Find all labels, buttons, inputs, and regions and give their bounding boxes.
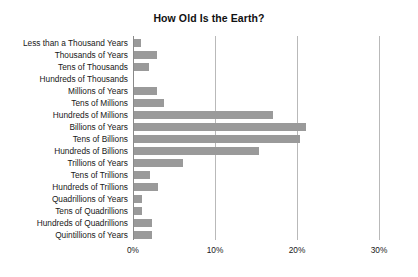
category-label: Tens of Quadrillions [0,205,128,217]
bar-row: Thousands of Years [0,49,418,61]
bar-row: Hundreds of Trillions [0,181,418,193]
x-tick-label: 10% [207,244,224,256]
bar [134,51,157,59]
category-label: Quintillions of Years [0,229,128,241]
bar-rows: Less than a Thousand YearsThousands of Y… [0,36,418,240]
category-label: Millions of Years [0,85,128,97]
bar [134,207,142,215]
bar [134,147,259,155]
bar [134,159,183,167]
bar-row: Quadrillions of Years [0,193,418,205]
category-label: Hundreds of Trillions [0,181,128,193]
bar-row: Tens of Billions [0,133,418,145]
category-label: Hundreds of Quadrillions [0,217,128,229]
category-label: Less than a Thousand Years [0,37,128,49]
bar-chart: How Old Is the Earth? Less than a Thousa… [0,0,418,277]
bar [134,135,300,143]
bar-row: Tens of Quadrillions [0,205,418,217]
category-label: Thousands of Years [0,49,128,61]
x-axis-ticks: 0%10%20%30% [0,244,418,258]
bar [134,99,164,107]
bar [134,39,141,47]
chart-title: How Old Is the Earth? [0,12,418,24]
bar-row: Quintillions of Years [0,229,418,241]
x-tick-label: 20% [289,244,306,256]
bar [134,87,157,95]
category-label: Hundreds of Billions [0,145,128,157]
x-tick-label: 30% [371,244,388,256]
bar-row: Hundreds of Quadrillions [0,217,418,229]
category-label: Hundreds of Thousands [0,73,128,85]
category-label: Tens of Millions [0,97,128,109]
bar-row: Hundreds of Thousands [0,73,418,85]
bar-row: Less than a Thousand Years [0,37,418,49]
bar-row: Tens of Thousands [0,61,418,73]
bar-row: Hundreds of Billions [0,145,418,157]
category-label: Tens of Billions [0,133,128,145]
bar [134,111,273,119]
bar-row: Millions of Years [0,85,418,97]
bar [134,63,149,71]
bar-row: Tens of Trillions [0,169,418,181]
category-label: Trillions of Years [0,157,128,169]
bar-row: Billions of Years [0,121,418,133]
bar [134,183,158,191]
category-label: Tens of Trillions [0,169,128,181]
category-label: Quadrillions of Years [0,193,128,205]
x-tick-label: 0% [127,244,139,256]
category-label: Hundreds of Millions [0,109,128,121]
bar-row: Tens of Millions [0,97,418,109]
category-label: Billions of Years [0,121,128,133]
bar-row: Trillions of Years [0,157,418,169]
bar [134,219,152,227]
bar [134,195,142,203]
bar [134,123,306,131]
category-label: Tens of Thousands [0,61,128,73]
bar [134,171,150,179]
bar-row: Hundreds of Millions [0,109,418,121]
bar [134,231,152,239]
